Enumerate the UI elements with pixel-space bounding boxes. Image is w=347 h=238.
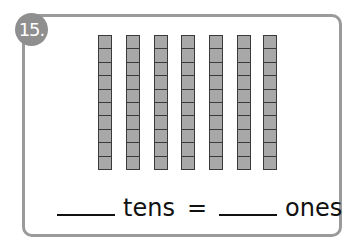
tens-answer-blank[interactable] [57,192,115,216]
unit-cube [264,116,276,129]
tens-rod [237,35,251,170]
tens-rod [154,35,168,170]
unit-cube [155,130,167,143]
unit-cube [127,63,139,76]
unit-cube [155,76,167,89]
unit-cube [155,143,167,156]
unit-cube [238,76,250,89]
ones-answer-blank[interactable] [219,192,277,216]
tens-rod [98,35,112,170]
unit-cube [99,103,111,116]
unit-cube [99,90,111,103]
unit-cube [127,130,139,143]
unit-cube [182,76,194,89]
unit-cube [238,49,250,62]
unit-cube [127,36,139,49]
tens-label: tens [123,194,175,222]
tens-rod [126,35,140,170]
unit-cube [155,63,167,76]
unit-cube [264,157,276,169]
unit-cube [155,116,167,129]
equals-sign: = [187,194,207,222]
unit-cube [210,143,222,156]
unit-cube [264,90,276,103]
equation: tens = ones [57,192,342,222]
unit-cube [238,63,250,76]
unit-cube [182,116,194,129]
unit-cube [155,103,167,116]
unit-cube [210,36,222,49]
unit-cube [238,157,250,169]
tens-rod [263,35,277,170]
unit-cube [99,63,111,76]
unit-cube [182,130,194,143]
unit-cube [210,63,222,76]
unit-cube [155,49,167,62]
unit-cube [127,157,139,169]
unit-cube [182,36,194,49]
unit-cube [155,36,167,49]
unit-cube [127,116,139,129]
tens-rod [209,35,223,170]
unit-cube [127,143,139,156]
unit-cube [238,90,250,103]
unit-cube [210,130,222,143]
unit-cube [99,157,111,169]
unit-cube [182,90,194,103]
unit-cube [182,49,194,62]
unit-cube [127,90,139,103]
unit-cube [264,36,276,49]
unit-cube [182,157,194,169]
unit-cube [127,76,139,89]
unit-cube [238,130,250,143]
unit-cube [99,130,111,143]
unit-cube [210,116,222,129]
unit-cube [182,143,194,156]
unit-cube [210,157,222,169]
problem-number-badge: 15. [15,13,48,46]
unit-cube [155,90,167,103]
ones-label: ones [285,194,342,222]
unit-cube [99,36,111,49]
unit-cube [155,157,167,169]
unit-cube [238,103,250,116]
unit-cube [264,143,276,156]
unit-cube [99,49,111,62]
unit-cube [182,103,194,116]
unit-cube [238,36,250,49]
tens-rod [181,35,195,170]
unit-cube [210,103,222,116]
unit-cube [210,49,222,62]
unit-cube [264,63,276,76]
unit-cube [238,143,250,156]
problem-number: 15. [19,19,45,40]
unit-cube [264,130,276,143]
unit-cube [264,49,276,62]
unit-cube [238,116,250,129]
unit-cube [99,116,111,129]
unit-cube [99,76,111,89]
unit-cube [99,143,111,156]
unit-cube [127,103,139,116]
unit-cube [127,49,139,62]
unit-cube [264,76,276,89]
unit-cube [210,76,222,89]
unit-cube [210,90,222,103]
unit-cube [264,103,276,116]
unit-cube [182,63,194,76]
